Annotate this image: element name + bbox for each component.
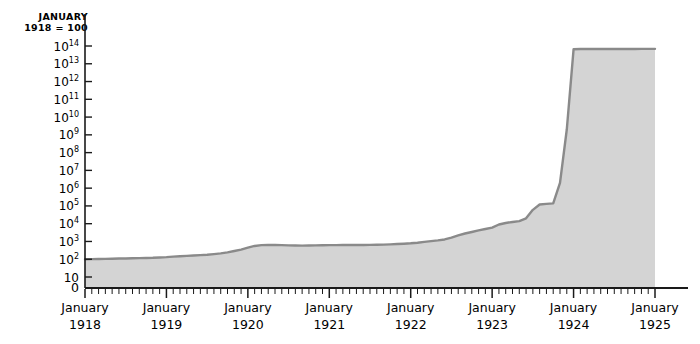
x-tick-label-year: 1922 xyxy=(395,317,427,332)
x-tick-label-year: 1921 xyxy=(313,317,345,332)
chart-canvas: JANUARY 1918 = 100 101410131012101110101… xyxy=(0,0,700,344)
x-tick-label-month: January xyxy=(630,300,679,315)
hyperinflation-chart: JANUARY 1918 = 100 101410131012101110101… xyxy=(0,0,700,344)
x-tick-label-year: 1925 xyxy=(639,317,671,332)
x-tick-label-year: 1919 xyxy=(151,317,183,332)
origin-zero-label: 0 xyxy=(71,280,79,295)
y-axis-title-line1: JANUARY xyxy=(38,11,88,22)
x-tick-label-month: January xyxy=(223,300,272,315)
x-tick-label-month: January xyxy=(305,300,354,315)
x-tick-label-year: 1918 xyxy=(69,317,101,332)
x-tick-label-year: 1923 xyxy=(476,317,508,332)
x-tick-label-month: January xyxy=(142,300,191,315)
y-axis-title-line2: 1918 = 100 xyxy=(24,22,88,33)
x-tick-label-month: January xyxy=(467,300,516,315)
x-tick-label-month: January xyxy=(60,300,109,315)
x-tick-label-year: 1920 xyxy=(232,317,264,332)
x-tick-label-year: 1924 xyxy=(558,317,590,332)
x-tick-label-month: January xyxy=(549,300,598,315)
x-tick-label-month: January xyxy=(386,300,435,315)
